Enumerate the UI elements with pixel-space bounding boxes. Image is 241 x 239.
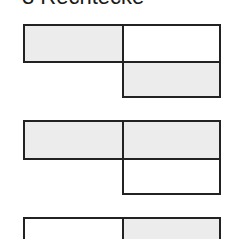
cell-top-right [122,120,221,160]
cell-bottom-right [122,61,221,98]
cell-top-right [122,217,221,239]
cell-bottom-right [122,158,221,195]
cell-top-left [23,217,124,239]
cell-top-left [23,120,124,160]
cell-top-left [23,24,124,63]
cell-top-right [122,24,221,63]
diagram-title: 3 Rechtecke [22,0,144,8]
